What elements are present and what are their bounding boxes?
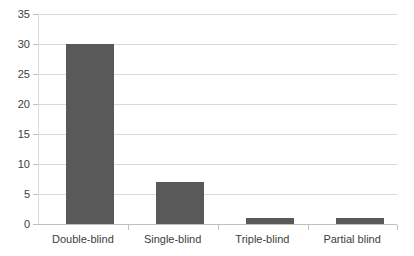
gridline-35 <box>38 14 397 15</box>
bar-partial-blind <box>336 218 384 224</box>
bar-chart: 35 30 25 20 15 10 5 0 Double-blind <box>0 0 414 256</box>
x-label-triple-blind: Triple-blind <box>218 232 308 252</box>
y-tick-label-20: 20 <box>2 99 30 110</box>
x-tick-separator-3 <box>308 225 309 230</box>
plot-area <box>38 14 397 224</box>
bar-double-blind <box>66 44 114 224</box>
x-label-single-blind: Single-blind <box>128 232 218 252</box>
y-tick-label-10: 10 <box>2 159 30 170</box>
x-tick-separator-1 <box>128 225 129 230</box>
y-tick-label-35: 35 <box>2 9 30 20</box>
y-tick-label-5: 5 <box>2 189 30 200</box>
x-tick-separator-4 <box>397 225 398 230</box>
x-label-partial-blind: Partial blind <box>307 232 397 252</box>
y-axis-tick-labels: 35 30 25 20 15 10 5 0 <box>0 0 30 256</box>
x-label-double-blind: Double-blind <box>38 232 128 252</box>
y-tick-label-25: 25 <box>2 69 30 80</box>
bar-single-blind <box>156 182 204 224</box>
bar-triple-blind <box>246 218 294 224</box>
x-axis-category-labels: Double-blind Single-blind Triple-blind P… <box>38 232 397 252</box>
y-tick-label-15: 15 <box>2 129 30 140</box>
x-tick-separator-2 <box>218 225 219 230</box>
y-tick-label-30: 30 <box>2 39 30 50</box>
y-tick-label-0: 0 <box>2 219 30 230</box>
